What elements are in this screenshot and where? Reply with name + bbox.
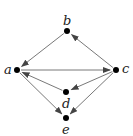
- node-c: [113, 67, 119, 73]
- node-b: [64, 28, 70, 34]
- edge-a-to-e: [20, 73, 62, 114]
- node-e: [63, 115, 69, 121]
- graph-diagram: a b c d e: [0, 0, 133, 136]
- edge-b-to-a: [22, 33, 64, 66]
- node-label-e: e: [62, 123, 70, 136]
- node-label-b: b: [63, 14, 71, 27]
- node-d: [63, 89, 69, 95]
- node-label-c: c: [122, 62, 129, 75]
- node-a: [14, 67, 20, 73]
- edge-c-to-b: [72, 35, 113, 68]
- node-label-d: d: [62, 97, 70, 110]
- edge-c-to-e: [70, 73, 113, 114]
- node-label-a: a: [4, 63, 12, 76]
- edge-c-to-d: [71, 72, 112, 90]
